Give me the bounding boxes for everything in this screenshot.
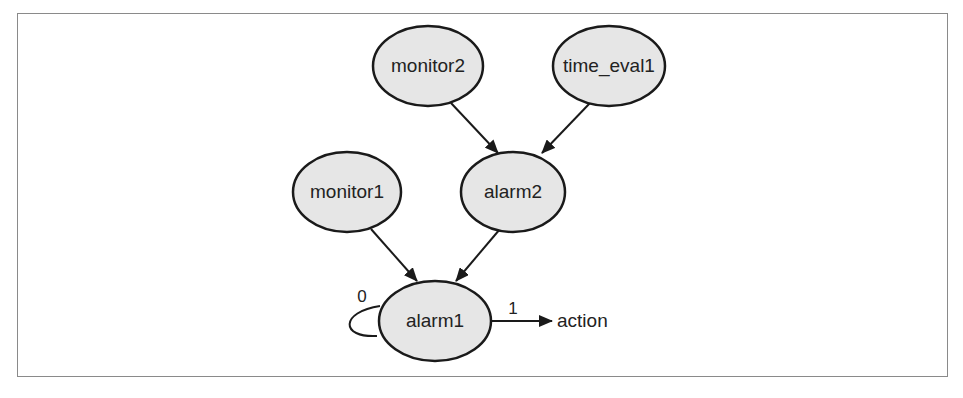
node-label: time_eval1 xyxy=(563,55,655,77)
node-alarm1: alarm1 xyxy=(379,281,491,361)
node-label: alarm1 xyxy=(406,310,464,331)
terminal-action-label: action xyxy=(557,310,608,331)
edge-alarm2-alarm1 xyxy=(456,229,500,281)
edge-label-to-action: 1 xyxy=(508,299,517,318)
node-label: monitor1 xyxy=(310,181,384,202)
node-time_eval1: time_eval1 xyxy=(553,26,665,106)
node-label: alarm2 xyxy=(484,181,542,202)
node-monitor1: monitor1 xyxy=(293,152,401,232)
edge-monitor2-alarm2 xyxy=(451,103,498,153)
node-label: monitor2 xyxy=(391,55,465,76)
edge-alarm1-self-loop xyxy=(350,306,380,336)
edge-time_eval1-alarm2 xyxy=(542,103,590,153)
edge-label-self-loop: 0 xyxy=(357,287,366,306)
node-alarm2: alarm2 xyxy=(461,152,565,232)
state-diagram: monitor2 time_eval1 monitor1 alarm2 alar… xyxy=(0,0,963,398)
node-monitor2: monitor2 xyxy=(373,26,483,106)
edge-monitor1-alarm1 xyxy=(371,229,417,281)
